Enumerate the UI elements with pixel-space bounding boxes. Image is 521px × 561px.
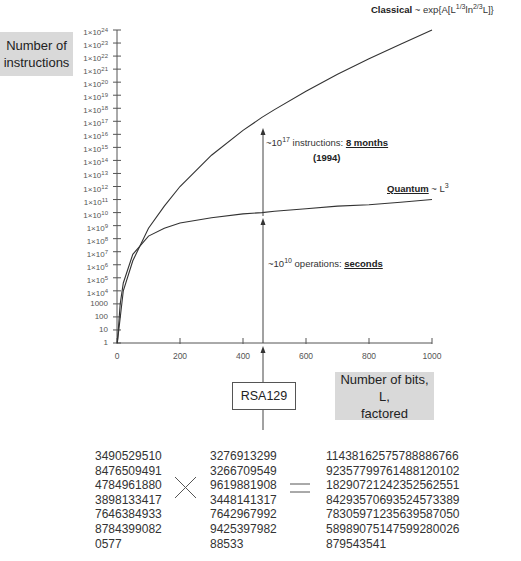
digit-row: 3898133417 [95,493,162,508]
times-icon [175,477,196,498]
arrow-up-icon [261,346,266,353]
product-digits: 1143816257578888676692357799761488120102… [326,449,459,551]
digit-row: 18290721242352562551 [326,478,459,493]
digit-row: 9425397982 [210,522,277,537]
digit-row: 88533 [210,537,277,552]
factor-1-digits: 3490529510847650949147849618803898133417… [95,449,162,551]
classical-annotation: ~1017 instructions: 8 months [266,136,388,148]
digit-row: 3448141317 [210,493,277,508]
digit-row: 3266709549 [210,464,277,479]
digit-row: 9619881908 [210,478,277,493]
classical-curve [117,30,432,343]
digit-row: 7642967992 [210,507,277,522]
digit-row: 84293570693524573389 [326,493,459,508]
classical-label: Classical ~ exp{A[L1/3ln2/3L]} [371,3,494,15]
digit-row: 7646384933 [95,507,162,522]
rsa129-box: RSA129 [232,382,296,410]
equals-icon [290,484,310,492]
x-axis-label: Number of bits, L, factored [335,372,434,420]
quantum-curve [117,200,432,344]
digit-row: 8476509491 [95,464,162,479]
factor-2-digits: 3276913299326670954996198819083448141317… [210,449,277,551]
digit-row: 3276913299 [210,449,277,464]
x-axis-label-line1: Number of bits, L, [335,371,434,405]
digit-row: 78305971235639587050 [326,507,459,522]
digit-row: 92357799761488120102 [326,464,459,479]
digit-row: 58989075147599280026 [326,522,459,537]
digit-row: 11438162575788886766 [326,449,459,464]
classical-annotation-year: (1994) [313,152,340,163]
digit-row: 4784961880 [95,478,162,493]
quantum-label: Quantum ~ L3 [387,182,449,194]
arrow-up-icon [261,128,266,135]
digit-row: 0577 [95,537,162,552]
arrow-up-icon [261,218,266,225]
x-axis-label-line2: factored [335,405,434,422]
digit-row: 3490529510 [95,449,162,464]
digit-row: 8784399082 [95,522,162,537]
quantum-annotation: ~1010 operations: seconds [268,257,383,269]
digit-row: 879543541 [326,537,459,552]
